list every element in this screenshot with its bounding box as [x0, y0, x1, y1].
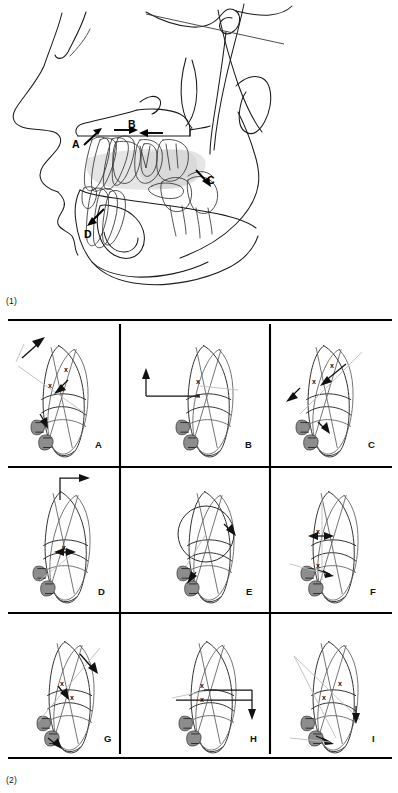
tooth-tracing-F [301, 492, 358, 603]
grid-cell-B: x x B [142, 346, 252, 457]
marker-x-D1: x [62, 544, 66, 551]
grid-cell-D: x D [33, 474, 105, 603]
label-C-text: C [207, 174, 215, 186]
marker-x-G2: x [70, 694, 74, 701]
tooth-tracing-H [179, 642, 236, 753]
label-A-text: A [72, 138, 80, 150]
tooth-movement-grid-panel: x x A x x B [0, 318, 398, 773]
marker-x-C1: x [330, 362, 334, 369]
grid-cell-A: x x A [16, 337, 102, 457]
cell-letter-C: C [368, 439, 375, 450]
label-B-group: B [114, 118, 163, 137]
marker-x-A1: x [64, 366, 68, 373]
figure-root: A B C D (1) [0, 0, 398, 793]
cephalometric-tracing-panel: A B C D [0, 0, 398, 300]
marker-x-F1: x [316, 528, 320, 535]
grid-cell-C: x x C [286, 346, 375, 457]
cell-letter-A: A [95, 439, 102, 450]
soft-tissue-profile [13, 12, 90, 255]
marker-x-H1: x [200, 682, 204, 689]
tooth-tracing-B [176, 346, 233, 457]
cell-letter-G: G [104, 733, 111, 744]
grid-svg: x x A x x B [0, 318, 398, 773]
label-D-text: D [84, 228, 92, 240]
cranial-base-outline [146, 4, 292, 154]
label-A-arrow-head [93, 128, 102, 135]
maxilla-outline [76, 58, 210, 136]
figure-caption-1: (1) [6, 296, 17, 306]
cell-letter-H: H [250, 733, 257, 744]
cephalogram-svg: A B C D [0, 0, 398, 300]
marker-x-B1: x [196, 378, 200, 385]
movement-arrow-D: x [40, 474, 90, 580]
marker-x-I1: x [338, 680, 342, 687]
figure-caption-2: (2) [6, 775, 17, 785]
marker-x-B2: x [196, 392, 200, 399]
grid-cell-F: x x F [290, 492, 376, 603]
tooth-tracing-A [31, 346, 88, 457]
grid-cell-I: x x I [290, 642, 375, 753]
cell-letter-I: I [372, 733, 375, 744]
grid-cell-E: E [177, 492, 252, 603]
cell-letter-F: F [370, 586, 376, 597]
grid-cell-G: x x G [37, 642, 111, 753]
marker-x-H2: x [200, 696, 204, 703]
label-B-text: B [128, 118, 136, 130]
tooth-tracing-I [301, 642, 358, 753]
marker-x-C2: x [312, 378, 316, 385]
cell-letter-E: E [246, 586, 252, 597]
cell-letter-B: B [245, 439, 252, 450]
marker-x-G1: x [60, 680, 64, 687]
marker-x-A2: x [48, 382, 52, 389]
marker-x-I2: x [322, 694, 326, 701]
marker-x-F2: x [316, 562, 320, 569]
grid-cell-H: x x H [172, 642, 257, 753]
tooth-tracing-E [177, 492, 234, 603]
tooth-tracing-G [37, 642, 94, 753]
cell-letter-D: D [98, 586, 105, 597]
tooth-tracing-C [296, 346, 353, 457]
